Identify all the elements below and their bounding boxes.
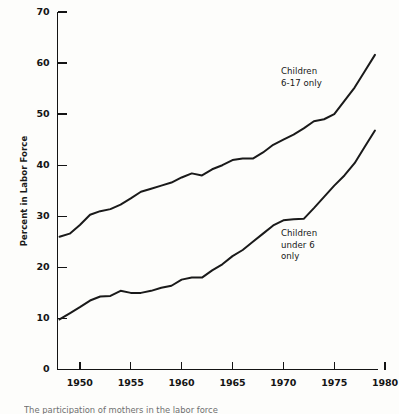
x-tick-label: 1950 <box>60 377 100 388</box>
y-tick-label: 30 <box>22 210 50 221</box>
x-tick-label: 1960 <box>162 377 202 388</box>
x-tick-label: 1975 <box>314 377 354 388</box>
series-label-children-6-17: Children 6-17 only <box>281 66 322 89</box>
x-tick-label: 1980 <box>365 377 399 388</box>
y-axis-title: Percent in Labor Force <box>19 121 29 261</box>
chart-figure: Percent in Labor Force 010203040506070 1… <box>0 0 399 414</box>
plot-area <box>0 0 399 414</box>
y-tick-label: 50 <box>22 108 50 119</box>
x-tick-label: 1965 <box>213 377 253 388</box>
series-line-0 <box>60 55 375 237</box>
series-label-children-under-6: Children under 6 only <box>281 228 317 263</box>
y-tick-label: 0 <box>22 363 50 374</box>
figure-caption: The participation of mothers in the labo… <box>24 405 384 414</box>
x-tick-label: 1970 <box>263 377 303 388</box>
series-line-1 <box>60 130 375 319</box>
y-tick-label: 60 <box>22 57 50 68</box>
data-series <box>60 55 375 320</box>
x-tick-label: 1955 <box>111 377 151 388</box>
y-tick-label: 10 <box>22 312 50 323</box>
y-tick-label: 40 <box>22 159 50 170</box>
y-tick-label: 20 <box>22 261 50 272</box>
y-tick-label: 70 <box>22 6 50 17</box>
axes <box>58 12 386 370</box>
